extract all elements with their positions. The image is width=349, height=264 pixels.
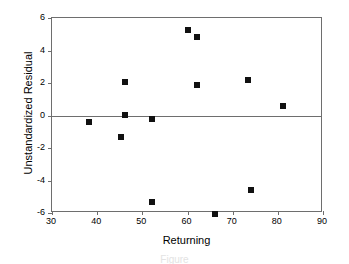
x-axis-title: Returning <box>51 234 322 246</box>
scatter-plot-figure: Unstandardized Residual 30405060708090 6… <box>0 0 349 264</box>
data-point <box>122 112 128 118</box>
data-point <box>118 134 124 140</box>
zero-reference-line <box>52 116 321 117</box>
x-tick-label: 40 <box>81 216 111 226</box>
x-tick <box>142 211 143 215</box>
x-tick-label: 70 <box>217 216 247 226</box>
y-tick-label: -4 <box>27 175 45 185</box>
x-tick <box>323 211 324 215</box>
y-tick-label: -6 <box>27 207 45 217</box>
x-tick <box>188 211 189 215</box>
x-tick-label: 90 <box>307 216 337 226</box>
x-tick-label: 80 <box>262 216 292 226</box>
data-point <box>149 116 155 122</box>
data-point <box>248 187 254 193</box>
y-tick <box>48 116 52 117</box>
data-point <box>194 82 200 88</box>
x-tick <box>97 211 98 215</box>
data-point <box>86 119 92 125</box>
plot-area <box>51 17 322 212</box>
data-point <box>122 79 128 85</box>
x-tick <box>52 211 53 215</box>
x-tick-label: 60 <box>172 216 202 226</box>
y-tick <box>48 18 52 19</box>
y-tick-label: 6 <box>27 12 45 22</box>
y-tick <box>48 51 52 52</box>
data-point <box>185 27 191 33</box>
x-tick-label: 50 <box>126 216 156 226</box>
y-tick-label: 0 <box>27 110 45 120</box>
data-point <box>245 77 251 83</box>
y-tick <box>48 181 52 182</box>
x-tick-label: 30 <box>36 216 66 226</box>
y-tick-label: -2 <box>27 142 45 152</box>
y-tick <box>48 83 52 84</box>
data-point <box>149 199 155 205</box>
y-tick <box>48 213 52 214</box>
y-tick <box>48 148 52 149</box>
data-point <box>194 34 200 40</box>
x-tick <box>278 211 279 215</box>
y-tick-label: 2 <box>27 77 45 87</box>
caption-fragment: Figure <box>0 254 349 264</box>
y-tick-label: 4 <box>27 45 45 55</box>
data-point <box>280 103 286 109</box>
x-tick <box>233 211 234 215</box>
